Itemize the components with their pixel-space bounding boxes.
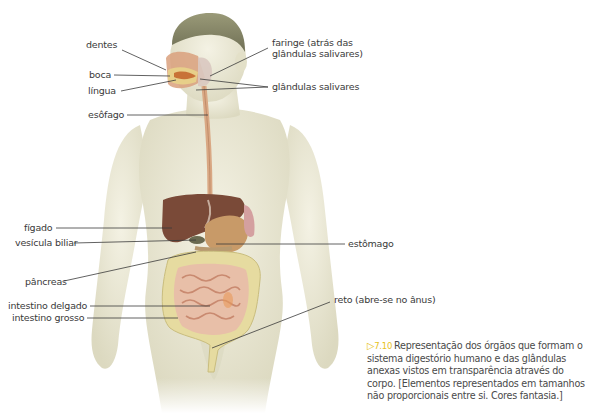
label-intestino-grosso: intestino grosso <box>12 312 84 323</box>
label-faringe-line2: glândulas salivares) <box>272 48 363 59</box>
label-estomago: estômago <box>348 238 394 249</box>
anatomy-figure: dentes boca língua esôfago faringe (atrá… <box>0 0 593 413</box>
label-dentes: dentes <box>86 39 117 50</box>
label-intestino-delgado: intestino delgado <box>8 300 87 311</box>
figure-caption: ▷7.10Representação dos órgãos que formam… <box>367 340 593 403</box>
caption-number: 7.10 <box>374 341 392 351</box>
label-pancreas: pâncreas <box>25 276 67 287</box>
label-boca: boca <box>89 69 111 80</box>
label-esofago: esôfago <box>88 109 124 120</box>
small-intestine <box>174 264 249 335</box>
caption-text: Representação dos órgãos que formam o si… <box>367 340 585 401</box>
label-glandulas-salivares: glândulas salivares <box>272 81 359 92</box>
label-faringe: faringe (atrás das glândulas salivares) <box>272 37 363 59</box>
label-faringe-line1: faringe (atrás das <box>272 37 353 48</box>
label-figado: fígado <box>24 222 52 233</box>
label-vesicula-biliar: vesícula biliar <box>15 237 77 248</box>
label-reto: reto (abre-se no ânus) <box>334 294 435 305</box>
label-lingua: língua <box>88 85 116 96</box>
